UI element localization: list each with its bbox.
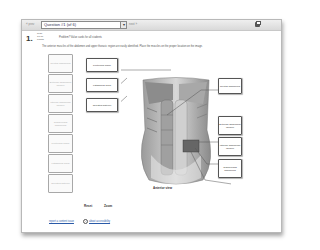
bank-item-rectus-abdominis[interactable]: Rectus abdominis	[48, 54, 73, 73]
bank-item-pectoralis-major[interactable]: Pectoralis major	[48, 134, 73, 153]
placed-label-transversus-abdominis[interactable]: Transversus abdominis	[218, 159, 242, 178]
zoom-button[interactable]: Zoom	[104, 204, 112, 208]
question-guide: Problem? Value cards for all students	[59, 36, 102, 39]
bank-item-external-oblique[interactable]: External abdominal oblique	[48, 74, 73, 93]
question-number: 1.	[26, 34, 33, 43]
next-button[interactable]: next »	[129, 22, 137, 26]
help-icon: ?	[83, 219, 88, 224]
placed-label-internal-oblique[interactable]: Internal abdominal oblique	[218, 137, 242, 156]
anatomy-figure	[121, 60, 231, 197]
placed-label-rectus-abdominis[interactable]: Rectus abdominis	[218, 78, 242, 94]
figure-caption: Anterior view	[153, 186, 172, 190]
placed-label-external-oblique[interactable]: External abdominal oblique	[218, 116, 242, 135]
bank-item-serratus-anterior[interactable]: Serratus anterior	[48, 174, 73, 193]
bank-item-latissimus-dorsi[interactable]: Latissimus dorsi	[48, 154, 73, 173]
placed-label-latissimus-dorsi[interactable]: Latissimus dorsi	[86, 78, 118, 92]
report-issue-link[interactable]: report a content issue	[49, 220, 74, 223]
question-points: avail. 10.00 points	[37, 32, 47, 41]
printer-icon[interactable]	[255, 22, 260, 27]
question-select-value: Question #1 (of 6)	[44, 22, 76, 28]
placed-label-pectoralis-major[interactable]: Pectoralis major	[86, 58, 118, 72]
bank-item-transversus-abdominis[interactable]: Transversus abdominis	[48, 114, 73, 133]
accessibility-link[interactable]: about accessibility	[89, 220, 110, 223]
toolbar: « prev Question #1 (of 6) ▾ next »	[22, 20, 281, 31]
prev-button[interactable]: « prev	[26, 22, 34, 26]
chevron-down-icon[interactable]: ▾	[120, 22, 126, 28]
question-window: « prev Question #1 (of 6) ▾ next » 1. av…	[21, 19, 282, 233]
bank-item-internal-oblique[interactable]: Internal abdominal oblique	[48, 94, 73, 113]
reset-button[interactable]: Reset	[84, 204, 92, 208]
question-select[interactable]: Question #1 (of 6) ▾	[41, 21, 127, 29]
placed-label-serratus-anterior[interactable]: Serratus anterior	[86, 98, 118, 112]
question-description: The anterior muscles of the abdomen and …	[42, 45, 272, 48]
